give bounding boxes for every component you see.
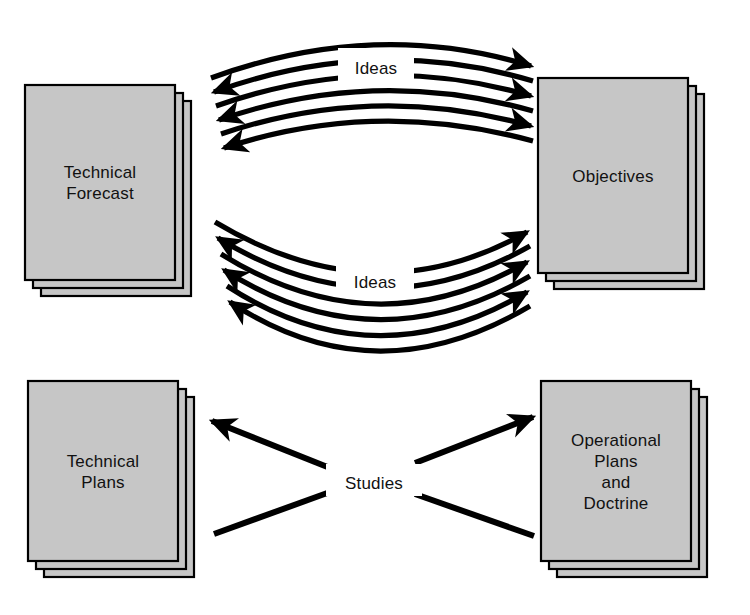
flow-label-ideas-lower: Ideas bbox=[354, 273, 397, 292]
box-technical-forecast[interactable]: Technical Forecast bbox=[25, 85, 191, 296]
diagram-svg: Technical Forecast Objectives Technical … bbox=[0, 0, 750, 615]
box-objectives[interactable]: Objectives bbox=[538, 78, 704, 289]
box-label-operational-line1: Operational bbox=[571, 431, 661, 450]
flow-label-ideas-upper: Ideas bbox=[355, 59, 398, 78]
box-label-technical-plans-line1: Technical bbox=[67, 452, 140, 471]
flow-studies[interactable]: Studies bbox=[212, 417, 534, 536]
doc-stack-layer-front bbox=[541, 381, 691, 561]
box-label-operational-line2: Plans bbox=[594, 452, 638, 471]
box-label-operational-line4: Doctrine bbox=[584, 494, 649, 513]
studies-line-to-operational-plans bbox=[415, 417, 533, 463]
flow-label-studies: Studies bbox=[345, 474, 403, 493]
studies-line-from-technical-plans bbox=[214, 492, 330, 534]
flow-ideas-lower[interactable]: Ideas bbox=[215, 222, 530, 351]
box-label-operational-line3: and bbox=[602, 473, 631, 492]
box-label-technical-forecast-line2: Forecast bbox=[66, 184, 134, 203]
box-label-technical-plans-line2: Plans bbox=[81, 473, 125, 492]
studies-line-from-operational-plans bbox=[415, 494, 534, 536]
box-label-technical-forecast-line1: Technical bbox=[64, 163, 137, 182]
studies-line-to-technical-plans bbox=[212, 421, 330, 468]
box-technical-plans[interactable]: Technical Plans bbox=[28, 381, 194, 577]
diagram-canvas: Technical Forecast Objectives Technical … bbox=[0, 0, 750, 615]
box-label-objectives-line1: Objectives bbox=[572, 167, 653, 186]
box-operational-plans-and-doctrine[interactable]: Operational Plans and Doctrine bbox=[541, 381, 707, 577]
doc-stack-layer-front bbox=[28, 381, 178, 561]
doc-stack-layer-front bbox=[25, 85, 175, 280]
ideas-upper-arc-6-leftward bbox=[224, 121, 533, 148]
flow-ideas-upper[interactable]: Ideas bbox=[211, 45, 533, 148]
